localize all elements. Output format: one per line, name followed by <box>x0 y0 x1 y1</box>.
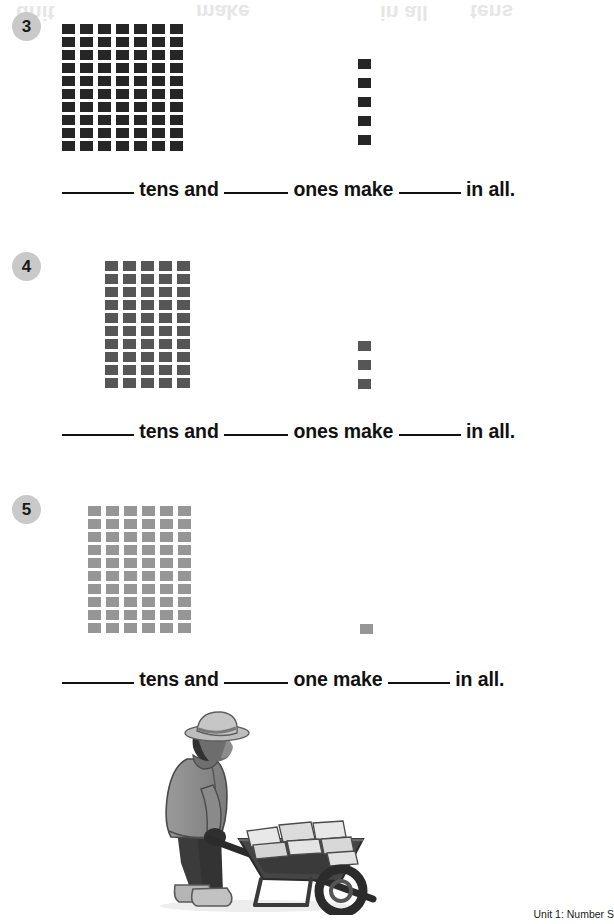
unit-cube <box>62 76 75 86</box>
unit-cube <box>160 519 173 529</box>
unit-cube <box>116 24 129 34</box>
unit-cube <box>88 558 101 568</box>
child-pushing-wheelbarrow-illustration <box>135 703 393 915</box>
unit-cube <box>178 623 191 633</box>
unit-cube <box>177 326 190 336</box>
unit-cube <box>80 141 93 151</box>
unit-cube <box>123 313 136 323</box>
unit-cube <box>134 89 147 99</box>
unit-cube <box>178 545 191 555</box>
unit-cube <box>80 63 93 73</box>
blank-total[interactable] <box>399 192 461 194</box>
unit-cube <box>142 532 155 542</box>
unit-cube <box>98 141 111 151</box>
ten-rod <box>105 261 118 388</box>
blank-tens[interactable] <box>62 682 134 684</box>
unit-cube <box>98 50 111 60</box>
unit-cube <box>134 24 147 34</box>
unit-cube <box>106 584 119 594</box>
unit-cube <box>123 287 136 297</box>
unit-cube <box>141 326 154 336</box>
unit-cube <box>80 89 93 99</box>
label-tens-and: tens and <box>139 668 218 690</box>
one-cube <box>358 116 371 126</box>
unit-cube <box>80 76 93 86</box>
unit-cube <box>170 50 183 60</box>
unit-cube <box>159 378 172 388</box>
label-tens-and: tens and <box>139 178 218 200</box>
unit-cube <box>105 352 118 362</box>
unit-cube <box>134 141 147 151</box>
unit-cube <box>62 37 75 47</box>
label-ones-make: ones make <box>293 178 393 200</box>
unit-cube <box>88 545 101 555</box>
one-cube <box>360 624 373 634</box>
unit-cube <box>105 339 118 349</box>
unit-cube <box>116 141 129 151</box>
one-cube <box>358 360 371 370</box>
ten-rod <box>106 506 119 633</box>
ones-cubes-group <box>358 59 371 145</box>
unit-cube <box>170 37 183 47</box>
unit-cube <box>98 76 111 86</box>
unit-cube <box>170 76 183 86</box>
unit-cube <box>116 128 129 138</box>
unit-cube <box>160 597 173 607</box>
unit-cube <box>62 24 75 34</box>
ten-rod <box>116 24 129 151</box>
unit-cube <box>106 623 119 633</box>
unit-cube <box>141 365 154 375</box>
unit-cube <box>106 571 119 581</box>
ten-rod <box>80 24 93 151</box>
unit-cube <box>159 339 172 349</box>
unit-cube <box>116 102 129 112</box>
blank-tens[interactable] <box>62 192 134 194</box>
unit-cube <box>88 623 101 633</box>
unit-cube <box>106 610 119 620</box>
unit-cube <box>105 365 118 375</box>
unit-cube <box>124 558 137 568</box>
blank-total[interactable] <box>388 682 450 684</box>
one-cube <box>358 135 371 145</box>
fill-in-sentence: tens and ones make in all. <box>62 420 614 443</box>
problem-number-badge: 5 <box>12 495 41 524</box>
unit-cube <box>62 128 75 138</box>
blank-ones[interactable] <box>224 682 288 684</box>
ten-rod <box>123 261 136 388</box>
unit-cube <box>141 352 154 362</box>
unit-cube <box>123 326 136 336</box>
unit-cube <box>62 141 75 151</box>
unit-cube <box>159 287 172 297</box>
unit-cube <box>152 63 165 73</box>
unit-cube <box>80 102 93 112</box>
unit-cube <box>160 545 173 555</box>
unit-cube <box>141 287 154 297</box>
unit-cube <box>98 115 111 125</box>
unit-cube <box>106 558 119 568</box>
ten-rod <box>124 506 137 633</box>
unit-cube <box>124 532 137 542</box>
unit-cube <box>141 274 154 284</box>
unit-cube <box>152 37 165 47</box>
label-in-all: in all. <box>455 668 504 690</box>
blank-ones[interactable] <box>224 192 288 194</box>
unit-cube <box>123 352 136 362</box>
scan-bleed-ghost-text: unitmakein alltens <box>0 0 614 26</box>
unit-cube <box>80 24 93 34</box>
unit-cube <box>105 378 118 388</box>
unit-cube <box>98 37 111 47</box>
unit-cube <box>160 532 173 542</box>
unit-cube <box>134 102 147 112</box>
unit-cube <box>141 300 154 310</box>
unit-cube <box>123 378 136 388</box>
unit-cube <box>123 339 136 349</box>
blank-ones[interactable] <box>224 434 288 436</box>
unit-cube <box>124 584 137 594</box>
blank-tens[interactable] <box>62 434 134 436</box>
unit-cube <box>177 261 190 271</box>
ones-cubes-group <box>358 341 371 389</box>
problem-number-badge: 3 <box>12 12 41 41</box>
blank-total[interactable] <box>399 434 461 436</box>
unit-cube <box>159 313 172 323</box>
unit-cube <box>141 261 154 271</box>
